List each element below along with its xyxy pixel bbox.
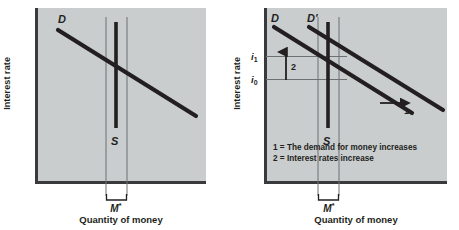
- m-star-label-left: M*: [86, 201, 146, 214]
- plot-svg-left: S D: [0, 0, 229, 230]
- m-star-asterisk: *: [119, 201, 122, 210]
- panel-money-demand-shift: Interest rate S D D' i1 i0: [229, 0, 459, 230]
- m-star-label-right: M*: [299, 201, 359, 214]
- x-axis-label-left: Quantity of money: [36, 214, 206, 225]
- money-supply-label-left: S: [111, 135, 119, 147]
- annotation-label-2: 2: [291, 62, 296, 72]
- money-market-figure: Interest rate S D M* Quantity of money I…: [0, 0, 459, 230]
- money-demand-label-initial: D: [271, 12, 279, 24]
- money-demand-label-new: D': [307, 12, 318, 24]
- annotation-label-1: 1: [404, 106, 409, 116]
- m-star-bracket-right: [319, 194, 339, 200]
- plot-svg-right: S D D' i1 i0 2 1: [229, 0, 459, 230]
- rate-tick-label-i1: i1: [251, 51, 258, 63]
- money-demand-label-left: D: [58, 13, 66, 25]
- legend-item-2: 2 = Interest rates increase: [273, 154, 417, 165]
- x-axis-label-right: Quantity of money: [265, 214, 447, 225]
- rate-tick-label-i0: i0: [251, 74, 258, 86]
- m-star-text-right: M*: [323, 203, 334, 214]
- m-star-bracket-left: [107, 194, 127, 200]
- rate-tick-i0-subscript: 0: [254, 79, 258, 86]
- rate-tick-i1-subscript: 1: [254, 56, 258, 63]
- panel-money-market-equilibrium: Interest rate S D M* Quantity of money: [0, 0, 229, 230]
- m-star-asterisk: *: [332, 201, 335, 210]
- m-star-text-left: M*: [110, 203, 121, 214]
- legend-item-1: 1 = The demand for money increases: [273, 143, 417, 154]
- annotation-legend: 1 = The demand for money increases 2 = I…: [273, 143, 417, 164]
